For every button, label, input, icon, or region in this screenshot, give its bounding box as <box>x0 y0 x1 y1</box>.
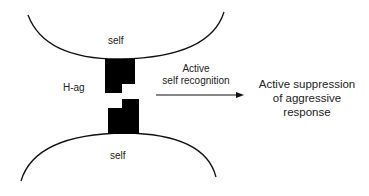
top-cell-membrane <box>28 12 224 59</box>
result-line3: response <box>255 105 359 119</box>
arrow-label: Active self recognition <box>158 63 234 87</box>
result-line1: Active suppression <box>255 77 359 91</box>
arrow-head-icon <box>236 92 244 98</box>
top-antigen-block <box>105 59 135 93</box>
bottom-cell-label: self <box>110 150 126 162</box>
result-text: Active suppression of aggressive respons… <box>255 77 359 119</box>
result-line2: of aggressive <box>255 91 359 105</box>
antigen-label: H-ag <box>63 82 85 94</box>
arrow-label-line1: Active <box>158 63 234 75</box>
bottom-antigen-block <box>108 99 139 134</box>
top-cell-label: self <box>108 35 124 47</box>
arrow-label-line2: self recognition <box>158 75 234 87</box>
